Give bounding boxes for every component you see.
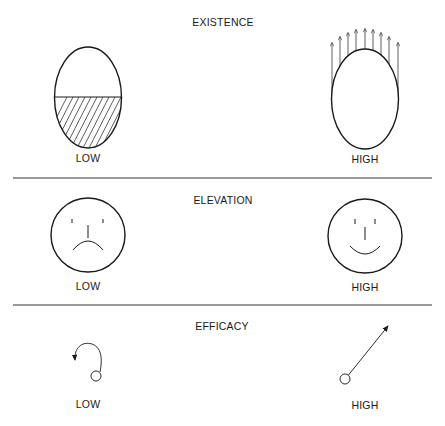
section-title-efficacy: EFFICACY bbox=[195, 320, 249, 332]
curled-back-arrow-icon bbox=[75, 343, 101, 381]
existence-low-label: LOW bbox=[76, 152, 101, 164]
happy-face-icon bbox=[328, 199, 402, 273]
section-title-elevation: ELEVATION bbox=[193, 194, 252, 206]
elevation-low-label: LOW bbox=[76, 280, 101, 292]
efficacy-low-label: LOW bbox=[76, 398, 101, 410]
egg-with-upward-arrows-icon bbox=[332, 29, 399, 149]
section-title-existence: EXISTENCE bbox=[192, 16, 253, 28]
existence-high-label: HIGH bbox=[351, 153, 378, 165]
diagram-canvas bbox=[0, 0, 445, 426]
sad-face-icon bbox=[51, 198, 125, 272]
efficacy-high-label: HIGH bbox=[351, 399, 378, 411]
elevation-high-label: HIGH bbox=[351, 281, 378, 293]
half-filled-egg-icon bbox=[40, 47, 145, 150]
straight-outward-arrow-icon bbox=[340, 326, 388, 384]
